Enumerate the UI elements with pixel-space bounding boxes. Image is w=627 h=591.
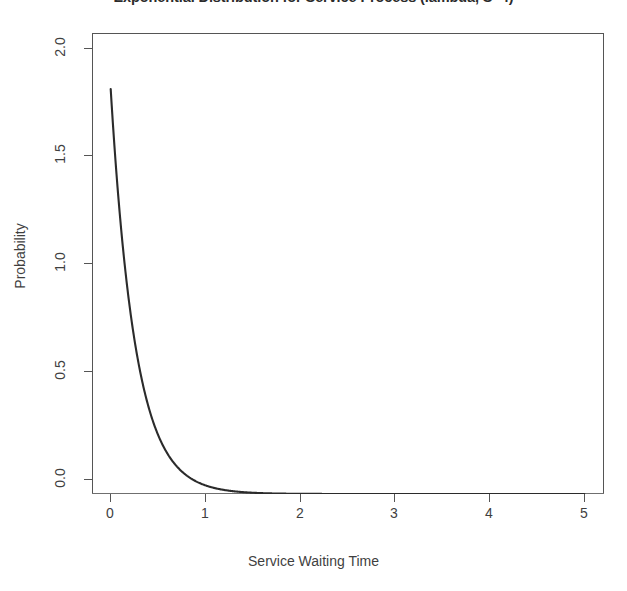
xtick-label-2: 2 <box>280 505 320 521</box>
xtick-mark-3 <box>394 494 395 502</box>
ytick-label-0: 0.0 <box>52 460 68 496</box>
xtick-mark-5 <box>584 494 585 502</box>
ytick-label-1: 0.5 <box>52 352 68 388</box>
curve-canvas <box>92 33 604 494</box>
chart-title: Exponential Distribution for Service Pro… <box>0 0 627 5</box>
xtick-mark-2 <box>300 494 301 502</box>
ytick-mark-0 <box>84 479 92 480</box>
exponential-pdf-curve <box>111 89 585 494</box>
xtick-label-1: 1 <box>185 505 225 521</box>
xtick-label-3: 3 <box>374 505 414 521</box>
ytick-mark-2 <box>84 263 92 264</box>
ytick-mark-1 <box>84 371 92 372</box>
xtick-label-0: 0 <box>90 505 130 521</box>
xtick-mark-0 <box>110 494 111 502</box>
ytick-mark-4 <box>84 48 92 49</box>
exponential-distribution-chart: Exponential Distribution for Service Pro… <box>0 0 627 591</box>
xtick-mark-1 <box>205 494 206 502</box>
ytick-label-3: 1.5 <box>52 136 68 172</box>
xtick-label-4: 4 <box>469 505 509 521</box>
ytick-label-4: 2.0 <box>52 29 68 65</box>
xtick-label-5: 5 <box>564 505 604 521</box>
y-axis-title: Probability <box>12 196 28 316</box>
ytick-label-2: 1.0 <box>52 244 68 280</box>
plot-drawing-area <box>92 33 604 494</box>
x-axis-title: Service Waiting Time <box>0 553 627 569</box>
ytick-mark-3 <box>84 155 92 156</box>
xtick-mark-4 <box>489 494 490 502</box>
